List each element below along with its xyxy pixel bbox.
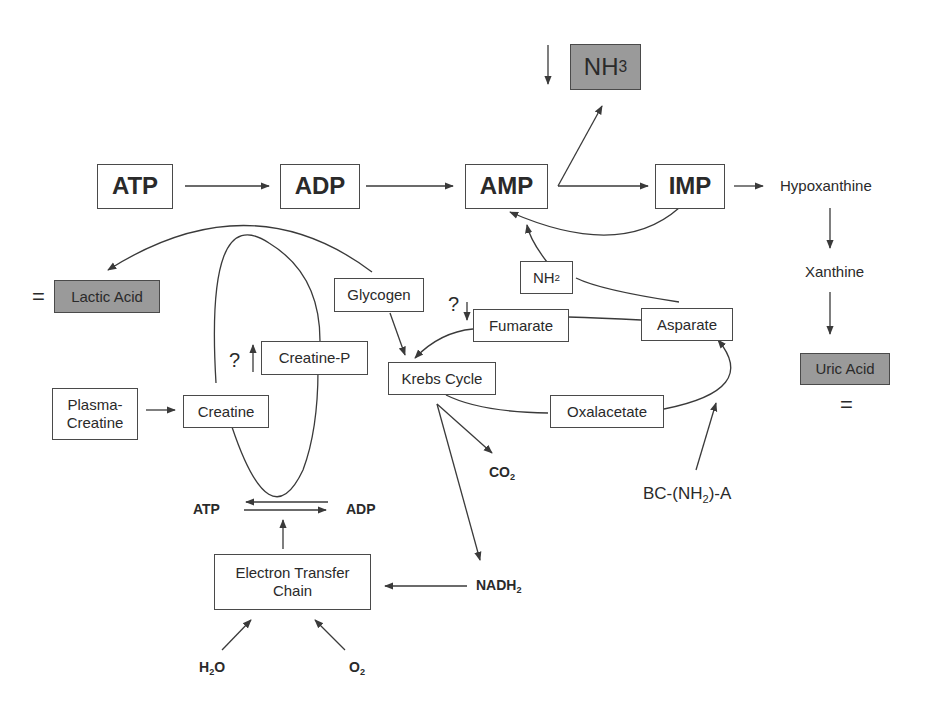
node-atp-small: ATP: [193, 502, 220, 516]
lactic-acid-unchanged-mark: =: [32, 286, 45, 308]
node-atp: ATP: [97, 164, 173, 209]
etc-line2: Chain: [273, 582, 312, 600]
creatine-p-question-mark: ?: [229, 350, 240, 370]
node-glycogen: Glycogen: [334, 278, 424, 312]
nadh2-subscript: 2: [516, 585, 521, 595]
node-plasma-creatine: Plasma- Creatine: [52, 388, 138, 440]
h2o-prefix: H: [199, 659, 209, 675]
node-krebs-cycle: Krebs Cycle: [388, 362, 496, 395]
node-co2: CO2: [489, 465, 515, 482]
nh3-label: NH: [584, 53, 619, 82]
node-nh3: NH3: [570, 44, 641, 90]
fumarate-question-mark: ?: [448, 294, 459, 314]
node-bcaa: BC-(NH2)-A: [643, 485, 731, 505]
node-imp: IMP: [655, 164, 725, 209]
nadh2-label: NADH: [476, 577, 516, 593]
uric-acid-unchanged-mark: =: [840, 394, 853, 416]
node-electron-transfer-chain: Electron Transfer Chain: [214, 554, 371, 610]
nh2-subscript: 2: [555, 272, 560, 284]
metabolic-pathway-diagram: NH3 ATP ADP AMP IMP Hypoxanthine Xanthin…: [0, 0, 927, 707]
node-h2o: H2O: [199, 660, 225, 677]
node-adp-small: ADP: [346, 502, 376, 516]
bcaa-suffix: )-A: [709, 484, 732, 503]
node-o2: O2: [349, 660, 365, 677]
etc-line1: Electron Transfer: [235, 564, 349, 582]
node-uric-acid: Uric Acid: [800, 353, 890, 385]
node-creatine-p: Creatine-P: [261, 341, 368, 375]
plasma-creatine-line1: Plasma-: [67, 396, 122, 414]
node-fumarate: Fumarate: [473, 309, 569, 342]
node-creatine: Creatine: [183, 395, 269, 428]
node-amp: AMP: [465, 164, 548, 209]
nh2-label: NH: [533, 269, 555, 287]
plasma-creatine-line2: Creatine: [67, 414, 124, 432]
nh3-subscript: 3: [618, 58, 627, 77]
o2-subscript: 2: [360, 667, 365, 677]
node-xanthine: Xanthine: [805, 264, 864, 279]
node-lactic-acid: Lactic Acid: [54, 280, 160, 313]
h2o-suffix: O: [214, 659, 225, 675]
node-asparate: Asparate: [641, 308, 733, 341]
node-hypoxanthine: Hypoxanthine: [780, 178, 872, 193]
pathway-arrows: [0, 0, 927, 707]
node-nh2: NH2: [520, 261, 573, 294]
bcaa-prefix: BC-(NH: [643, 484, 703, 503]
co2-label: CO: [489, 464, 510, 480]
node-adp: ADP: [280, 164, 360, 209]
o2-label: O: [349, 659, 360, 675]
node-nadh2: NADH2: [476, 578, 522, 595]
co2-subscript: 2: [510, 472, 515, 482]
node-oxalacetate: Oxalacetate: [550, 395, 664, 428]
